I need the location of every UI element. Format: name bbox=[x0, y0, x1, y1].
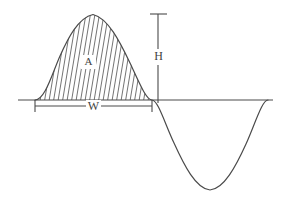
wave-diagram-svg bbox=[0, 0, 291, 206]
area-hatching bbox=[31, 11, 168, 101]
sine-wave-figure: A H W bbox=[0, 0, 291, 206]
height-label: H bbox=[151, 49, 166, 65]
width-label: W bbox=[86, 100, 101, 114]
area-label: A bbox=[81, 55, 96, 69]
